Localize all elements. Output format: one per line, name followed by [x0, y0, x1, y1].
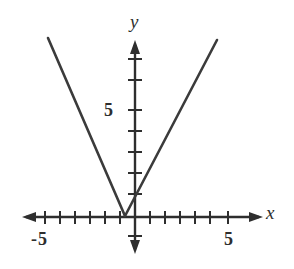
x-axis-label: x [266, 203, 274, 222]
y-axis-down-arrowhead [130, 240, 140, 254]
y-axis-group [128, 40, 142, 254]
x-tick-label-negative-5: -5 [31, 230, 48, 248]
graph-figure: y x -5 5 5 [0, 0, 294, 269]
x-axis-right-arrowhead [249, 212, 263, 222]
absolute-value-curve [48, 38, 217, 216]
curve-left-branch [48, 38, 125, 216]
x-axis-left-arrowhead [22, 212, 36, 222]
x-tick-label-positive-5: 5 [224, 230, 233, 248]
y-axis-up-arrowhead [130, 40, 140, 54]
curve-right-branch [125, 40, 217, 216]
y-axis-label: y [130, 12, 138, 31]
y-tick-label-5: 5 [104, 101, 113, 119]
x-axis-group [22, 211, 263, 224]
